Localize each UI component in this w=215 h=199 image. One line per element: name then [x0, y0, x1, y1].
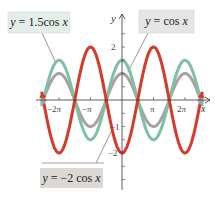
label-gray: y = cos x — [139, 10, 194, 33]
x-axis-label: x — [200, 103, 206, 114]
label-green: y = 1.5cos x — [8, 12, 70, 33]
label-gray-eq: = cos — [151, 14, 183, 29]
y-tick-label: −2 — [108, 148, 118, 158]
label-red-eq: = −2 cos — [48, 171, 96, 186]
label-red-x: x — [95, 171, 100, 186]
label-green-eq: = 1.5cos — [16, 15, 63, 30]
y-tick-label: 2 — [111, 42, 116, 52]
x-tick-label: −2π — [47, 104, 62, 114]
label-red: y = −2 cos x — [40, 168, 103, 188]
y-tick-label: −1 — [110, 122, 120, 132]
y-axis-label: y — [110, 12, 116, 24]
label-green-x: x — [62, 15, 67, 30]
x-tick-label: 2π — [177, 104, 187, 114]
leader-line-green — [42, 33, 56, 63]
x-tick-label: −π — [82, 104, 92, 114]
x-tick-label: π — [150, 104, 155, 114]
label-gray-x: x — [182, 14, 187, 29]
